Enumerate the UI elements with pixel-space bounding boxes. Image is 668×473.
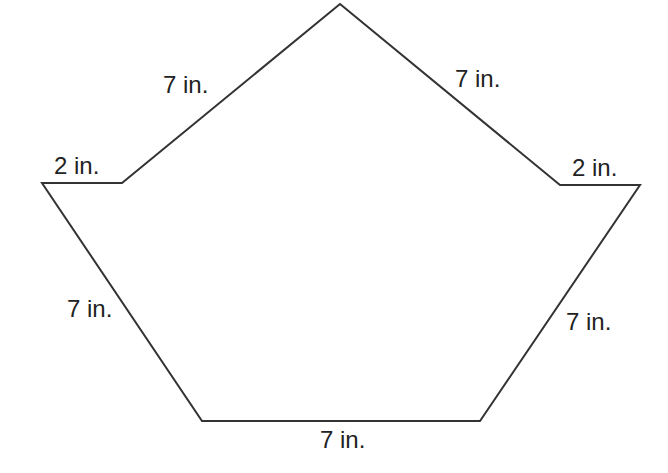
label-top-right-edge: 7 in. xyxy=(455,67,500,91)
label-lower-left-edge: 7 in. xyxy=(67,297,112,321)
pentagon-outline xyxy=(42,4,640,421)
label-top-left-edge: 7 in. xyxy=(163,73,208,97)
diagram-canvas: 7 in. 7 in. 2 in. 2 in. 7 in. 7 in. 7 in… xyxy=(0,0,668,473)
label-lower-right-edge: 7 in. xyxy=(566,310,611,334)
label-right-stub: 2 in. xyxy=(572,156,617,180)
label-bottom-edge: 7 in. xyxy=(320,428,365,452)
label-left-stub: 2 in. xyxy=(54,154,99,178)
polygon-shape xyxy=(0,0,668,473)
